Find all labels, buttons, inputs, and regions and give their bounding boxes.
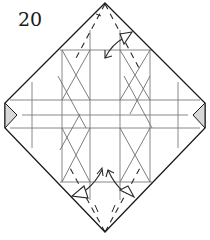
fold-arrows-bottom — [72, 168, 134, 198]
diagonal-creases — [58, 50, 152, 182]
left-flap — [5, 103, 17, 128]
origami-diagram — [0, 0, 210, 240]
right-flap — [193, 103, 205, 128]
diamond-outline — [5, 3, 205, 232]
fold-arrows-top — [105, 32, 132, 58]
